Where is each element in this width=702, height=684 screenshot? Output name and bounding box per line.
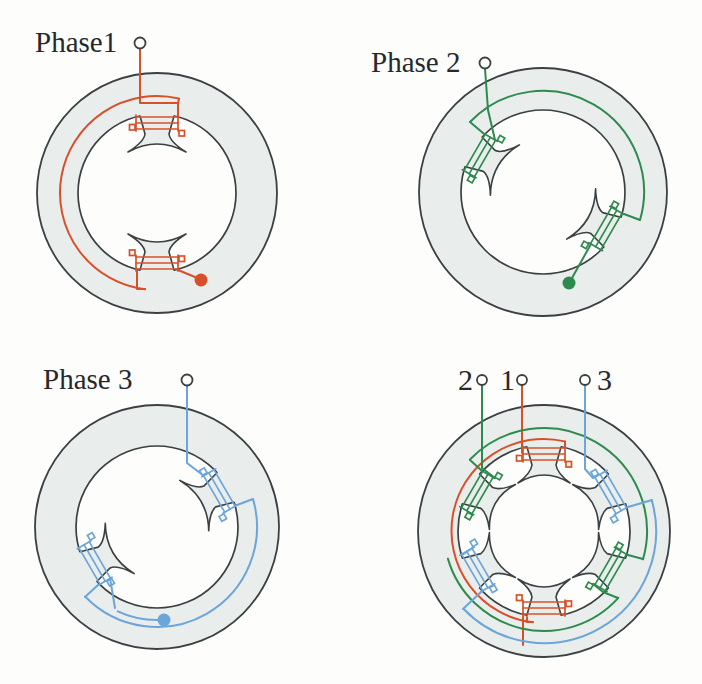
panel-phase1: Phase1 [0, 0, 351, 342]
panel-label: Phase1 [35, 26, 117, 58]
terminal-circle [182, 375, 193, 386]
terminal-circle [477, 375, 487, 385]
panel-label: 3 [597, 363, 612, 396]
panel-label: Phase 2 [371, 46, 460, 78]
panel-combined: 213 [351, 342, 702, 684]
terminal-circle [480, 58, 491, 69]
panel-label: 1 [500, 363, 515, 396]
terminal-circle [517, 375, 527, 385]
panel-phase2: Phase 2 [351, 0, 702, 342]
green-winding-end-dot [563, 277, 576, 290]
panel-label: Phase 3 [43, 363, 132, 395]
figure-three-phase-stator-windings: Phase1 Phase 2 Phase 3 213 [0, 0, 702, 684]
blue-winding-end-dot [158, 614, 171, 627]
red-winding-end-dot [195, 274, 208, 287]
terminal-circle [580, 375, 590, 385]
panel-phase3: Phase 3 [0, 342, 351, 684]
panel-label: 2 [458, 363, 473, 396]
red-winding-wire [178, 99, 179, 103]
terminal-circle [135, 38, 146, 49]
